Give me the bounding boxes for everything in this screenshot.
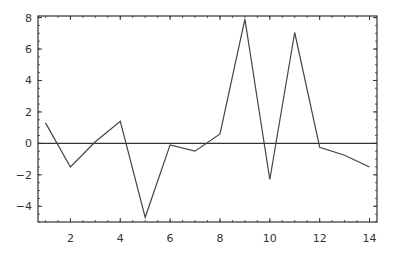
x-axis-ticks: 2468101214 (67, 16, 377, 245)
y-tick-label: −4 (16, 200, 32, 213)
plot-frame (38, 16, 377, 222)
x-tick-label: 12 (313, 232, 327, 245)
y-tick-label: 4 (25, 74, 32, 87)
y-tick-label: −2 (16, 169, 32, 182)
plot-border (38, 16, 377, 222)
x-tick-label: 10 (263, 232, 277, 245)
data-series-line (46, 19, 370, 217)
y-tick-label: 2 (25, 106, 32, 119)
y-tick-label: 0 (25, 137, 32, 150)
y-tick-label: 8 (25, 12, 32, 25)
x-tick-label: 6 (167, 232, 174, 245)
x-tick-label: 8 (216, 232, 223, 245)
x-tick-label: 2 (67, 232, 74, 245)
y-axis-ticks: −4−202468 (16, 12, 377, 214)
line-chart: −4−202468 2468101214 (0, 0, 396, 254)
x-tick-label: 4 (117, 232, 124, 245)
y-tick-label: 6 (25, 43, 32, 56)
x-tick-label: 14 (363, 232, 377, 245)
